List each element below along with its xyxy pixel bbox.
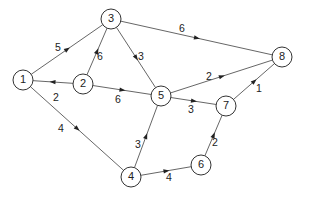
- node-6: 6: [191, 155, 211, 175]
- node-2: 2: [73, 74, 93, 94]
- edge-2-to-3: 6: [87, 28, 107, 75]
- node-label: 4: [128, 170, 134, 182]
- arrowhead-icon: [50, 80, 56, 84]
- node-label: 7: [223, 99, 229, 111]
- edge-weight-label: 2: [206, 70, 212, 82]
- edge-7-to-8: 1: [234, 64, 275, 100]
- node-label: 6: [198, 158, 204, 170]
- edge-weight-label: 3: [135, 138, 141, 150]
- edge-1-to-3: 5: [31, 25, 103, 75]
- edge-3-to-5: 3: [116, 27, 155, 87]
- node-8: 8: [272, 47, 292, 67]
- edge-weight-label: 4: [166, 171, 172, 183]
- node-4: 4: [121, 167, 141, 187]
- edge-weight-label: 2: [53, 91, 59, 103]
- node-7: 7: [216, 96, 236, 116]
- edge-weight-label: 1: [256, 82, 262, 94]
- node-label: 1: [20, 73, 26, 85]
- node-1: 1: [13, 70, 33, 90]
- node-3: 3: [101, 9, 121, 29]
- edge-weight-label: 2: [212, 136, 218, 148]
- node-label: 2: [80, 77, 86, 89]
- arrowhead-icon: [143, 133, 147, 139]
- edge-5-to-7: 3: [171, 98, 216, 115]
- edge-2-to-1: 2: [33, 80, 73, 103]
- edge-1-to-4: 4: [30, 87, 123, 171]
- edge-4-to-6: 4: [141, 167, 191, 183]
- edge-weight-label: 6: [179, 22, 185, 34]
- arrowhead-icon: [218, 75, 224, 79]
- edge-6-to-7: 2: [205, 115, 222, 156]
- node-label: 8: [279, 50, 285, 62]
- edge-weight-label: 3: [138, 50, 144, 62]
- node-label: 3: [108, 12, 114, 24]
- edge-weight-label: 3: [188, 103, 194, 115]
- edge-4-to-5: 3: [134, 105, 157, 167]
- edge-weight-label: 4: [58, 122, 64, 134]
- arrowhead-icon: [64, 48, 70, 53]
- edge-2-to-5: 6: [93, 86, 151, 105]
- directed-graph: 5263664342321 12345678: [0, 0, 309, 199]
- node-5: 5: [151, 86, 171, 106]
- arrowhead-icon: [119, 87, 125, 91]
- edge-weight-label: 6: [115, 93, 121, 105]
- node-label: 5: [158, 89, 164, 101]
- edge-weight-label: 5: [55, 41, 61, 53]
- edge-weight-label: 6: [97, 50, 103, 62]
